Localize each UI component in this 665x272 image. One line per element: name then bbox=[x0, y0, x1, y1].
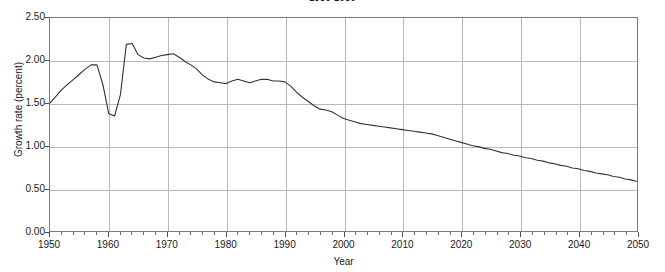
x-axis-minor-tick bbox=[143, 232, 144, 235]
x-axis-minor-tick bbox=[261, 232, 262, 235]
x-axis-tick-mark bbox=[167, 232, 168, 237]
x-axis-tick-label: 1950 bbox=[29, 239, 69, 250]
x-axis-minor-tick bbox=[556, 232, 557, 235]
x-axis-tick-label: 2030 bbox=[500, 239, 540, 250]
x-axis-minor-tick bbox=[120, 232, 121, 235]
x-axis-tick-mark bbox=[108, 232, 109, 237]
x-axis-minor-tick bbox=[391, 232, 392, 235]
x-axis-minor-tick bbox=[614, 232, 615, 235]
x-axis-minor-tick bbox=[414, 232, 415, 235]
y-axis-tick-label: 1.00 bbox=[3, 141, 45, 151]
y-axis-tick-label: 0.00 bbox=[3, 227, 45, 237]
x-axis-minor-tick bbox=[320, 232, 321, 235]
y-axis-tick-label: 2.00 bbox=[3, 55, 45, 65]
x-axis-minor-tick bbox=[473, 232, 474, 235]
x-axis-minor-tick bbox=[567, 232, 568, 235]
x-axis-minor-tick bbox=[155, 232, 156, 235]
x-axis-label: Year bbox=[49, 256, 638, 267]
x-axis-minor-tick bbox=[190, 232, 191, 235]
x-axis-minor-tick bbox=[131, 232, 132, 235]
x-axis-tick-mark bbox=[344, 232, 345, 237]
x-axis-tick-mark bbox=[402, 232, 403, 237]
data-series-line bbox=[50, 18, 637, 231]
x-axis-minor-tick bbox=[591, 232, 592, 235]
y-axis-tick-label: 1.50 bbox=[3, 98, 45, 108]
x-axis-minor-tick bbox=[367, 232, 368, 235]
x-axis-minor-tick bbox=[237, 232, 238, 235]
x-axis-minor-tick bbox=[73, 232, 74, 235]
plot-area bbox=[49, 17, 638, 232]
x-axis-tick-label: 1990 bbox=[265, 239, 305, 250]
x-axis-tick-label: 1960 bbox=[88, 239, 128, 250]
x-axis-tick-label: 2000 bbox=[324, 239, 364, 250]
x-axis-minor-tick bbox=[296, 232, 297, 235]
x-axis-minor-tick bbox=[61, 232, 62, 235]
x-axis-minor-tick bbox=[96, 232, 97, 235]
x-axis-tick-label: 1970 bbox=[147, 239, 187, 250]
x-axis-minor-tick bbox=[249, 232, 250, 235]
chart-figure: 1950-2050 0.000.501.001.502.002.50 Growt… bbox=[0, 0, 665, 272]
x-axis-tick-mark bbox=[520, 232, 521, 237]
x-axis-minor-tick bbox=[214, 232, 215, 235]
x-axis-minor-tick bbox=[355, 232, 356, 235]
x-axis-tick-mark bbox=[638, 232, 639, 237]
x-axis-tick-label: 1980 bbox=[206, 239, 246, 250]
x-axis-minor-tick bbox=[308, 232, 309, 235]
x-axis-minor-tick bbox=[626, 232, 627, 235]
x-axis-minor-tick bbox=[532, 232, 533, 235]
x-axis-minor-tick bbox=[603, 232, 604, 235]
x-axis-minor-tick bbox=[497, 232, 498, 235]
x-axis-minor-tick bbox=[179, 232, 180, 235]
y-axis-tick-label: 0.50 bbox=[3, 184, 45, 194]
x-axis-tick-mark bbox=[579, 232, 580, 237]
x-axis-tick-label: 2010 bbox=[382, 239, 422, 250]
x-axis-minor-tick bbox=[544, 232, 545, 235]
x-axis-tick-label: 2050 bbox=[618, 239, 658, 250]
x-axis-tick-mark bbox=[285, 232, 286, 237]
x-axis-minor-tick bbox=[84, 232, 85, 235]
x-axis-tick-mark bbox=[226, 232, 227, 237]
x-axis-minor-tick bbox=[450, 232, 451, 235]
x-axis-minor-tick bbox=[379, 232, 380, 235]
x-axis-minor-tick bbox=[508, 232, 509, 235]
x-axis-minor-tick bbox=[485, 232, 486, 235]
x-axis-minor-tick bbox=[438, 232, 439, 235]
x-axis-minor-tick bbox=[426, 232, 427, 235]
y-axis-tick-label: 2.50 bbox=[3, 12, 45, 22]
x-axis-minor-tick bbox=[332, 232, 333, 235]
x-axis-tick-label: 2020 bbox=[441, 239, 481, 250]
chart-title: 1950-2050 bbox=[0, 0, 665, 3]
x-axis-tick-mark bbox=[49, 232, 50, 237]
y-axis-label: Growth rate (percent) bbox=[13, 40, 24, 180]
x-axis-minor-tick bbox=[273, 232, 274, 235]
x-axis-minor-tick bbox=[202, 232, 203, 235]
x-axis-tick-label: 2040 bbox=[559, 239, 599, 250]
x-axis-tick-mark bbox=[461, 232, 462, 237]
